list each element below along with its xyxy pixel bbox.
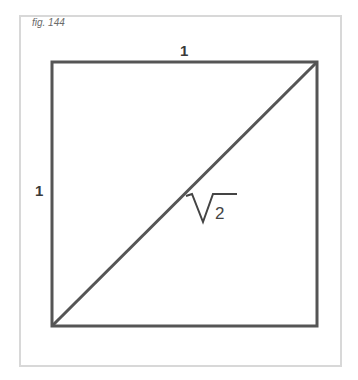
square-diagonal [52, 62, 317, 326]
top-side-length-label: 1 [180, 42, 188, 59]
sqrt-radicand: 2 [215, 204, 224, 223]
square-root-icon [186, 194, 237, 222]
unit-square-diagram: 2 [0, 0, 358, 380]
left-side-length-label: 1 [35, 182, 43, 199]
